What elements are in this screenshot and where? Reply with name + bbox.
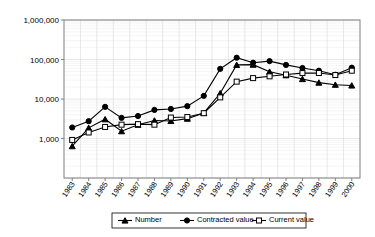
data-point-marker (251, 60, 256, 65)
data-point-marker (136, 122, 141, 127)
data-point-marker (102, 116, 108, 121)
x-axis-tick-label: 1999 (323, 180, 340, 199)
data-point-marker (267, 74, 272, 79)
data-point-marker (70, 137, 75, 142)
y-axis-tick-label: 100,000 (30, 56, 59, 65)
data-point-marker (333, 73, 338, 78)
data-point-marker (201, 111, 206, 116)
x-axis-tick-label: 1995 (257, 180, 274, 199)
data-point-marker (185, 115, 190, 120)
line-chart: 1,000,000100,00010,0001,000 198319841985… (0, 0, 375, 237)
data-point-marker (283, 62, 288, 67)
x-axis-tick-label: 2000 (339, 180, 356, 199)
x-axis-tick-label: 1998 (307, 180, 324, 199)
legend-item-label: Current value (269, 215, 314, 224)
x-axis-tick-label: 1994 (241, 180, 258, 199)
data-point-marker (300, 71, 305, 76)
x-axis-tick-label: 1988 (142, 180, 159, 199)
data-point-marker (234, 55, 239, 60)
data-point-marker (86, 119, 91, 124)
data-point-marker (168, 115, 173, 120)
x-axis-tick-label: 1989 (159, 180, 176, 199)
data-point-marker (234, 79, 239, 84)
data-point-marker (184, 218, 189, 223)
data-point-marker (349, 68, 354, 73)
data-point-marker (300, 65, 305, 70)
data-point-marker (251, 76, 256, 81)
data-point-marker (135, 113, 140, 118)
data-point-marker (257, 218, 262, 223)
data-point-marker (70, 125, 75, 130)
x-axis-tick-label: 1996 (274, 180, 291, 199)
data-point-marker (185, 104, 190, 109)
data-point-marker (267, 59, 272, 64)
legend-item-label: Number (135, 215, 162, 224)
data-point-marker (152, 122, 157, 127)
data-point-marker (201, 93, 206, 98)
data-point-marker (86, 130, 91, 135)
x-axis-tick-label: 1990 (175, 180, 192, 199)
x-axis-tick-label: 1991 (191, 180, 208, 199)
x-axis-tick-label: 1993 (224, 180, 241, 199)
y-axis-tick-label: 1,000,000 (23, 16, 59, 25)
data-point-marker (103, 104, 108, 109)
x-axis-tick-label: 1984 (76, 180, 93, 199)
chart-legend: NumberContracted valueCurrent value (112, 213, 314, 228)
y-axis-labels: 1,000,000100,00010,0001,000 (23, 16, 64, 144)
y-axis-tick-label: 1,000 (39, 135, 60, 144)
x-axis-tick-label: 1992 (208, 180, 225, 199)
x-axis-tick-label: 1985 (93, 180, 110, 199)
data-point-marker (218, 95, 223, 100)
data-point-marker (316, 71, 321, 76)
chart-container: 1,000,000100,00010,0001,000 198319841985… (0, 0, 375, 237)
data-point-marker (152, 107, 157, 112)
data-point-marker (119, 115, 124, 120)
legend-item-label: Contracted value (197, 215, 254, 224)
x-axis-tick-label: 1987 (126, 180, 143, 199)
data-point-marker (168, 106, 173, 111)
grid-lines (64, 20, 360, 178)
y-axis-tick-label: 10,000 (35, 95, 60, 104)
data-point-marker (103, 124, 108, 129)
x-axis-tick-label: 1983 (60, 180, 77, 199)
data-point-marker (284, 72, 289, 77)
x-axis-tick-label: 1986 (109, 180, 126, 199)
data-point-marker (119, 122, 124, 127)
x-axis-labels: 1983198419851986198719881989199019911992… (60, 178, 356, 199)
x-axis-tick-label: 1997 (290, 180, 307, 199)
data-point-marker (218, 66, 223, 71)
